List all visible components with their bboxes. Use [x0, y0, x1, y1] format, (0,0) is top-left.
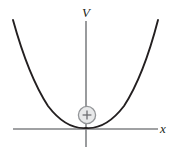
figure-container: V x	[0, 0, 171, 154]
x-axis-label: x	[159, 121, 166, 136]
v-axis-label: V	[82, 5, 92, 20]
positive-charge-particle	[78, 106, 95, 123]
potential-energy-plot: V x	[0, 0, 171, 154]
